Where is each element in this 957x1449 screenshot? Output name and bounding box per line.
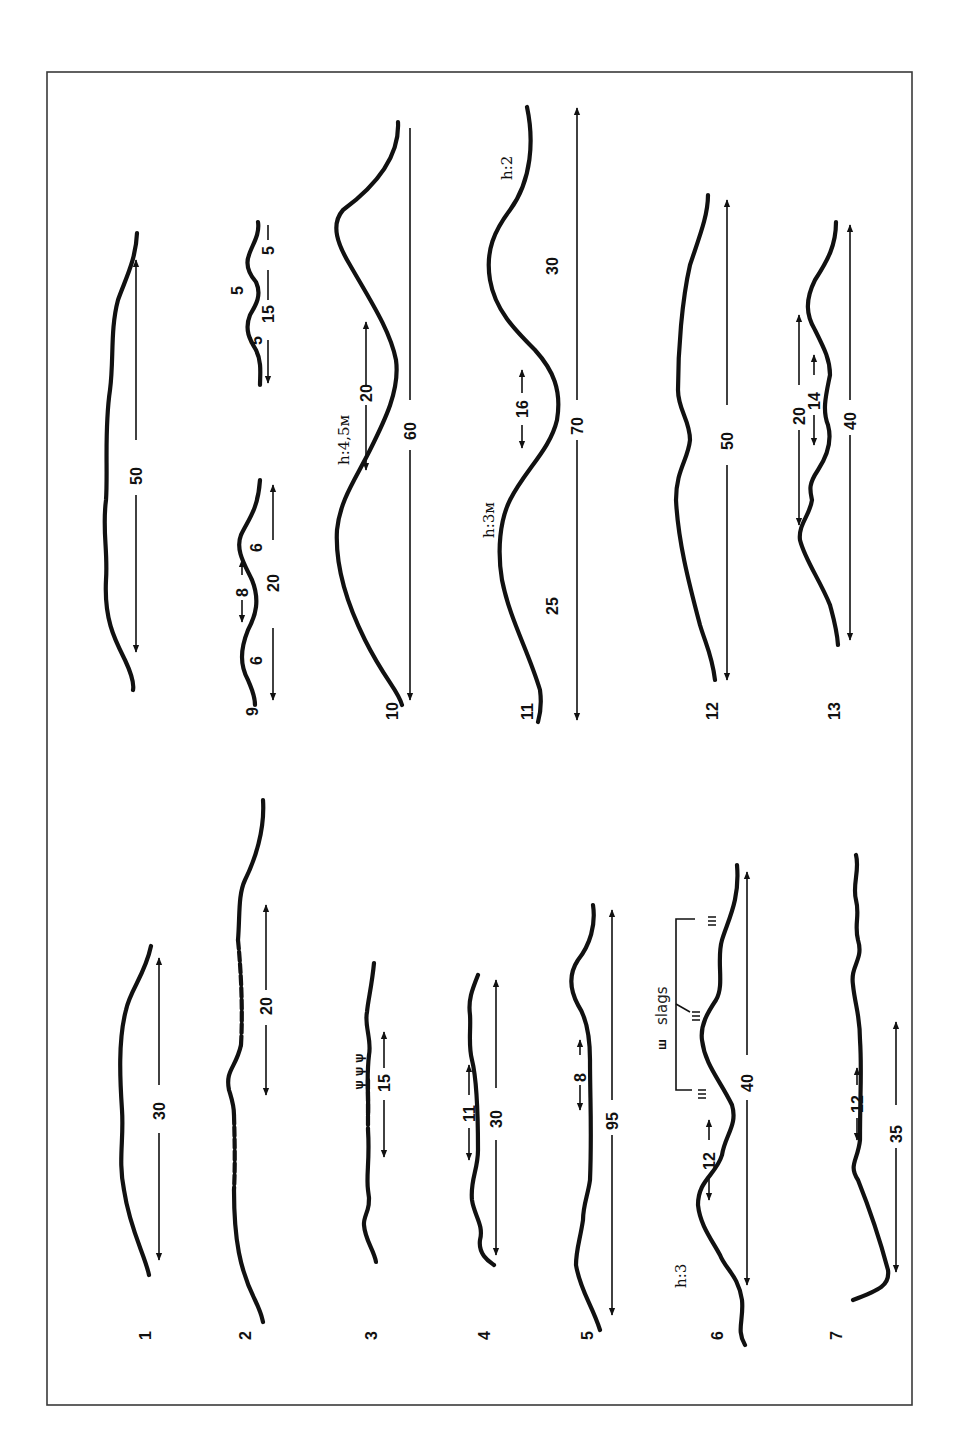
dimension-label: 15 <box>260 305 277 323</box>
profile-5: 8 95 5 <box>571 905 621 1340</box>
dimension-label: 35 <box>888 1125 905 1143</box>
dimension-label: 30 <box>544 257 561 275</box>
dimension-label: 12 <box>701 1152 718 1170</box>
dimension-label: 40 <box>842 412 859 430</box>
height-label: h:3м <box>480 502 498 538</box>
profile-7: 12 35 7 <box>828 855 905 1340</box>
slags-annotation: slags <box>653 986 671 1025</box>
profile-number-5: 5 <box>579 1331 596 1340</box>
profile-6: slags ш 40 12 h:3 6 <box>653 865 756 1345</box>
slag-symbol: ш <box>654 1039 669 1050</box>
profile-number-6: 6 <box>709 1331 726 1340</box>
dimension-label: 20 <box>265 574 282 592</box>
dimension-label: 20 <box>358 384 375 402</box>
profile-1: 30 1 <box>120 946 168 1340</box>
dimension-label: 11 <box>461 1105 478 1122</box>
profile-number-2: 2 <box>237 1331 254 1340</box>
profile-4: 11 30 4 <box>461 975 505 1340</box>
dimension-label: 16 <box>514 400 531 418</box>
dimension-label: 15 <box>376 1074 393 1092</box>
dimension-label: 5 <box>260 246 277 255</box>
profile-number-10: 10 <box>384 702 401 720</box>
dimension-label: 50 <box>719 432 736 450</box>
dimension-label: 70 <box>569 417 586 435</box>
height-label: h:4,5м <box>335 414 353 465</box>
vegetation-mark: ѱ ѱ ѱ <box>351 1053 366 1090</box>
dimension-label: 60 <box>402 422 419 440</box>
profile-number-9: 9 <box>244 707 261 716</box>
dimension-label: 50 <box>128 467 145 485</box>
profile-number-4: 4 <box>476 1331 493 1340</box>
dimension-label: 12 <box>849 1095 866 1113</box>
profile-12: 50 12 <box>676 195 736 720</box>
dimension-label: 20 <box>258 997 275 1015</box>
figure-border <box>47 72 912 1405</box>
dimension-label: 30 <box>151 1102 168 1120</box>
height-label: h:2 <box>498 156 516 180</box>
dimension-label: 40 <box>739 1074 756 1092</box>
profile-11: 70 16 30 25 h:3м h:2 11 <box>480 107 586 722</box>
profile-number-12: 12 <box>704 702 721 720</box>
dimension-label: 8 <box>234 588 251 597</box>
profile-number-3: 3 <box>363 1331 380 1340</box>
profile-number-7: 7 <box>828 1331 845 1340</box>
dimension-label: 25 <box>544 597 561 615</box>
profile-13: 40 20 14 13 <box>791 222 859 720</box>
profile-number-11: 11 <box>519 703 536 720</box>
dimension-label: 6 <box>248 543 265 552</box>
profile-9: 20 6 6 8 15 5 5 5 9 <box>229 222 282 716</box>
dimension-label: 6 <box>248 656 265 665</box>
geomorphology-profile-figure: 30 1 20 2 ѱ ѱ ѱ 15 3 11 30 4 <box>0 0 957 1449</box>
profile-number-13: 13 <box>826 702 843 720</box>
profile-2: 20 2 <box>228 800 275 1340</box>
dimension-label: 5 <box>248 336 265 345</box>
dimension-label: 8 <box>572 1073 589 1082</box>
dimension-label: 14 <box>806 392 823 410</box>
profile-10: 60 20 h:4,5м 10 <box>335 122 419 720</box>
height-label: h:3 <box>672 1264 690 1288</box>
dimension-label: 30 <box>488 1110 505 1128</box>
profile-3: ѱ ѱ ѱ 15 3 <box>351 963 393 1340</box>
dimension-label: 5 <box>229 286 246 295</box>
profile-8: 50 <box>105 233 145 690</box>
dimension-label: 95 <box>604 1112 621 1130</box>
profile-number-1: 1 <box>137 1331 154 1340</box>
